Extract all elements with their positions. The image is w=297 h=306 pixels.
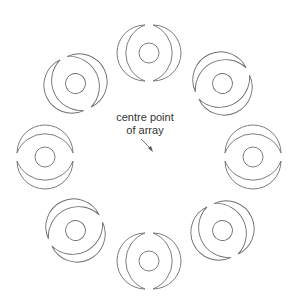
inner-circle xyxy=(62,70,89,97)
crescent-shape xyxy=(199,75,262,124)
crescent-shape xyxy=(52,222,115,271)
annotation-arrow xyxy=(141,139,153,152)
crescent-shape xyxy=(37,190,100,239)
array-element xyxy=(184,43,262,125)
polar-array-diagram xyxy=(0,0,297,306)
inner-circle xyxy=(139,251,159,271)
array-element xyxy=(17,125,73,189)
crescent-shape xyxy=(117,25,145,81)
array-element xyxy=(117,233,181,289)
crescent-shape xyxy=(184,43,247,92)
crescent-shape xyxy=(214,192,263,255)
crescent-shape xyxy=(225,125,281,153)
crescent-shape xyxy=(117,233,145,289)
array-element xyxy=(117,25,181,81)
crescent-shape xyxy=(182,207,231,270)
crescent-shape xyxy=(67,45,116,108)
crescent-shape xyxy=(153,25,181,81)
crescent-shape xyxy=(35,60,84,123)
inner-circle xyxy=(62,217,89,244)
inner-circle xyxy=(139,43,159,63)
array-elements xyxy=(17,25,281,289)
annotation-label-line2: of array xyxy=(105,124,185,136)
inner-circle xyxy=(243,147,263,167)
inner-circle xyxy=(209,217,236,244)
crescent-shape xyxy=(153,233,181,289)
crescent-shape xyxy=(225,161,281,189)
array-element xyxy=(37,190,115,272)
array-element xyxy=(182,192,264,270)
inner-circle xyxy=(35,147,55,167)
crescent-shape xyxy=(17,161,73,189)
crescent-shape xyxy=(17,125,73,153)
inner-circle xyxy=(209,70,236,97)
annotation-label-line1: centre point xyxy=(105,111,185,123)
array-element xyxy=(225,125,281,189)
